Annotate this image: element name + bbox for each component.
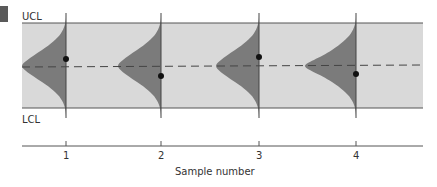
ucl-label: UCL [22,11,42,22]
lcl-label: LCL [22,114,41,125]
tick-label-2: 2 [158,150,164,161]
sample-point-4 [353,71,359,77]
sample-point-3 [256,54,262,60]
tick-label-1: 1 [63,150,69,161]
x-axis-ticks [66,141,356,146]
sample-point-1 [63,56,69,62]
tick-label-4: 4 [353,150,359,161]
x-axis-title: Sample number [175,166,256,177]
sample-point-2 [158,73,164,79]
control-chart: UCL LCL 1 2 3 4 Sample number [0,0,437,187]
corner-mark [0,6,8,22]
tick-label-3: 3 [256,150,262,161]
